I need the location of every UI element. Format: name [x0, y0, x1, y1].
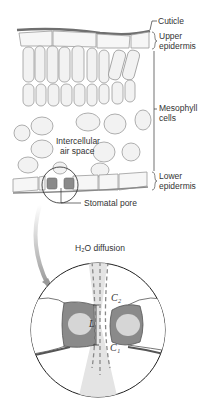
- label-mesophyll-1: Mesophyll: [159, 103, 197, 113]
- label-L: L: [89, 319, 95, 329]
- cuticle-leader: [150, 21, 157, 30]
- upper-epidermis-brace: [152, 32, 157, 49]
- label-upper-epidermis-1: Upper: [159, 31, 182, 41]
- label-lower-epidermis-2: epidermis: [159, 181, 196, 191]
- label-mesophyll-2: cells: [159, 113, 176, 123]
- label-intercellular-2: air space: [60, 146, 95, 156]
- lower-epidermis-brace: [152, 172, 157, 190]
- guard-cell-right-nucleus: [116, 314, 140, 336]
- label-intercellular-1: Intercellular: [56, 136, 100, 146]
- label-c2: C₂: [111, 293, 121, 303]
- label-upper-epidermis-2: epidermis: [159, 41, 196, 51]
- label-cuticle: Cuticle: [158, 16, 184, 26]
- mesophyll-bracket: [154, 51, 157, 171]
- guard-cells-small: [47, 178, 74, 189]
- label-c1: C₁: [110, 343, 120, 353]
- label-diffusion-title: H₂O diffusion: [75, 243, 125, 253]
- magnify-arrow-icon: [36, 205, 49, 285]
- palisade-mesophyll: [23, 46, 141, 106]
- label-lower-epidermis-1: Lower: [159, 171, 182, 181]
- label-stomatal-pore: Stomatal pore: [84, 198, 137, 208]
